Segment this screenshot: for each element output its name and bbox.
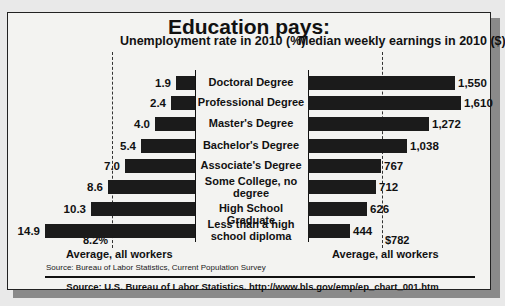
unemployment-bar [108, 180, 195, 194]
earnings-bar [308, 202, 367, 216]
source-note-small: Source: Bureau of Labor Statistics, Curr… [46, 263, 266, 272]
earnings-value-label: 1,550 [458, 76, 487, 90]
earnings-bar [308, 224, 350, 238]
category-label: Less than a high school diploma [196, 218, 306, 242]
unemployment-bar [45, 224, 195, 238]
unemployment-value-label: 10.3 [64, 202, 86, 216]
earnings-value-label: 444 [353, 224, 372, 238]
unemployment-bar [176, 76, 195, 90]
left-average-caption: Average, all workers [66, 248, 173, 260]
earnings-bar [308, 76, 455, 90]
earnings-bar [308, 117, 429, 131]
earnings-bar [308, 139, 407, 153]
source-divider [45, 276, 475, 278]
unemployment-bar [141, 139, 195, 153]
unemployment-bar [171, 96, 195, 110]
source-note-main: Source: U.S. Bureau of Labor Statistics.… [0, 281, 505, 292]
unemployment-bar [155, 117, 195, 131]
earnings-value-label: 1,272 [432, 117, 461, 131]
unemployment-value-label: 1.9 [155, 76, 171, 90]
earnings-value-label: 767 [384, 159, 403, 173]
earnings-value-label: 1,610 [464, 96, 493, 110]
earnings-bar [308, 96, 461, 110]
earnings-bar [308, 159, 381, 173]
earnings-value-label: 626 [370, 202, 389, 216]
unemployment-value-label: 5.4 [120, 139, 136, 153]
earnings-value-label: 1,038 [410, 139, 439, 153]
unemployment-bar [125, 159, 195, 173]
right-average-value: $782 [385, 234, 409, 246]
category-label: Professional Degree [196, 96, 306, 108]
left-average-line [112, 52, 113, 248]
right-chart-title: Median weekly earnings in 2010 ($) [298, 34, 505, 48]
unemployment-value-label: 8.6 [87, 180, 103, 194]
earnings-value-label: 712 [379, 180, 398, 194]
category-label: Master's Degree [196, 117, 306, 129]
category-label: Some College, no degree [196, 175, 306, 199]
unemployment-value-label: 2.4 [150, 96, 166, 110]
category-label: Associate's Degree [196, 159, 306, 171]
unemployment-bar [91, 202, 195, 216]
right-average-caption: Average, all workers [332, 248, 439, 260]
earnings-bar [308, 180, 376, 194]
left-chart-title: Unemployment rate in 2010 (%) [120, 34, 305, 48]
unemployment-value-label: 4.0 [134, 117, 150, 131]
category-label: Doctoral Degree [196, 76, 306, 88]
unemployment-value-label: 7.0 [104, 159, 120, 173]
unemployment-value-label: 14.9 [18, 224, 40, 238]
category-label: Bachelor's Degree [196, 139, 306, 151]
